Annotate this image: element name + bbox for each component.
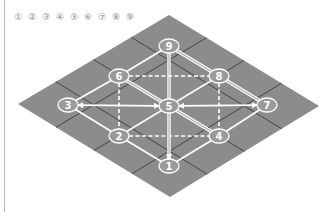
node-2: 2 [109,129,129,143]
edge-5-7 [179,105,257,106]
node-1: 1 [159,159,179,173]
isometric-board: 123456789 [0,0,331,212]
node-9: 9 [159,39,179,53]
node-label: 5 [166,101,173,112]
node-label: 6 [116,71,123,82]
node-label: 3 [65,100,72,111]
node-label: 9 [166,41,173,52]
node-label: 2 [116,131,123,142]
node-4: 4 [209,129,229,143]
node-6: 6 [109,69,129,83]
node-label: 4 [216,131,223,142]
node-label: 8 [216,71,223,82]
node-label: 7 [264,100,271,111]
node-5: 5 [159,99,179,113]
node-label: 1 [166,161,173,172]
edge-3-5 [78,105,159,106]
node-3: 3 [58,98,78,112]
node-8: 8 [209,69,229,83]
node-7: 7 [257,98,277,112]
